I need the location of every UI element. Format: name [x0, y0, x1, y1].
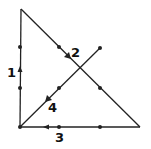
dot: [18, 86, 22, 90]
dot: [57, 86, 61, 90]
arrow-left-icon: [43, 125, 49, 130]
edge-label-3: 3: [55, 130, 64, 145]
dot: [57, 125, 61, 129]
edge-label-4: 4: [48, 100, 57, 115]
dot: [18, 45, 22, 49]
dot: [57, 45, 61, 49]
dot: [98, 125, 102, 129]
dot: [98, 86, 102, 90]
dot: [18, 125, 22, 129]
edge-label-2: 2: [71, 45, 80, 60]
edge-label-1: 1: [7, 65, 16, 80]
triangle-path-diagram: 1 2 3 4: [0, 0, 151, 149]
arrow-up-icon: [18, 66, 23, 72]
dot: [98, 46, 102, 50]
